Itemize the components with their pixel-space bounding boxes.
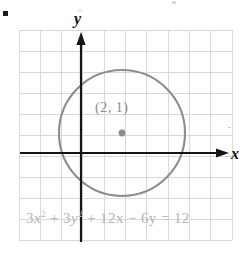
equation-term1-coeff: 3 bbox=[26, 210, 34, 226]
equation-term1-var: x bbox=[34, 210, 41, 226]
equation-term3: 12x bbox=[100, 210, 124, 226]
equation-operator-2: + bbox=[83, 210, 100, 226]
equation-operator-1: + bbox=[46, 210, 63, 226]
y-axis-arrowhead bbox=[76, 32, 85, 45]
equation-operator-3: − bbox=[124, 210, 141, 226]
circle-equation: 3x2 + 3y2 + 12x − 6y = 12 bbox=[26, 210, 190, 227]
x-axis-arrowhead bbox=[216, 148, 229, 157]
y-axis-label: y bbox=[74, 11, 81, 27]
equation-term2-var: y bbox=[71, 210, 78, 226]
equation-right-side: 12 bbox=[174, 210, 190, 226]
x-axis-label: x bbox=[231, 146, 239, 162]
equation-term2-coeff: 3 bbox=[63, 210, 71, 226]
circle-center-label: (2, 1) bbox=[95, 100, 128, 116]
circle-graph-figure: y x (2, 1) 3x2 + 3y2 + 12x − 6y = 12 bbox=[0, 0, 248, 255]
equation-operator-4: = bbox=[157, 210, 174, 226]
equation-term4: 6y bbox=[141, 210, 157, 226]
